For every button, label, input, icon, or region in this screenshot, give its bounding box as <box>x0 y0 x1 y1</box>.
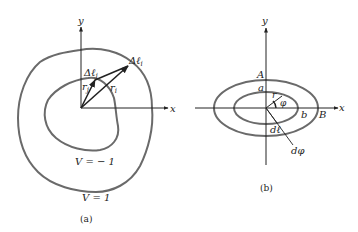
caption-a: (a) <box>80 214 92 224</box>
inner-contour-label: V = − 1 <box>75 156 115 167</box>
x-axis-label: x <box>170 103 176 114</box>
r-j-label: rj <box>82 81 90 94</box>
label-b: b <box>301 109 307 120</box>
y-axis-label: y <box>77 15 84 26</box>
label-phi: φ <box>280 98 287 108</box>
angle-phi-arc <box>273 101 276 108</box>
label-r: r <box>272 90 277 100</box>
figure-b: y x A a r φ b B dℓ dφ (b) <box>195 15 345 193</box>
label-dl: dℓ <box>270 124 281 135</box>
outer-contour-label: V = 1 <box>82 192 110 203</box>
x-axis-label-b: x <box>339 102 345 113</box>
label-A: A <box>256 69 264 80</box>
figure-a: y x Δℓj Δℓi rj ri V = − 1 V = 1 (a) <box>18 15 176 224</box>
caption-b: (b) <box>260 183 273 193</box>
label-a: a <box>258 82 264 93</box>
y-axis-label-b: y <box>261 15 268 26</box>
label-B: B <box>318 109 326 120</box>
label-dphi: dφ <box>291 145 304 156</box>
chord-ij <box>95 66 128 80</box>
figure-canvas: y x Δℓj Δℓi rj ri V = − 1 V = 1 (a) y x … <box>0 0 358 232</box>
